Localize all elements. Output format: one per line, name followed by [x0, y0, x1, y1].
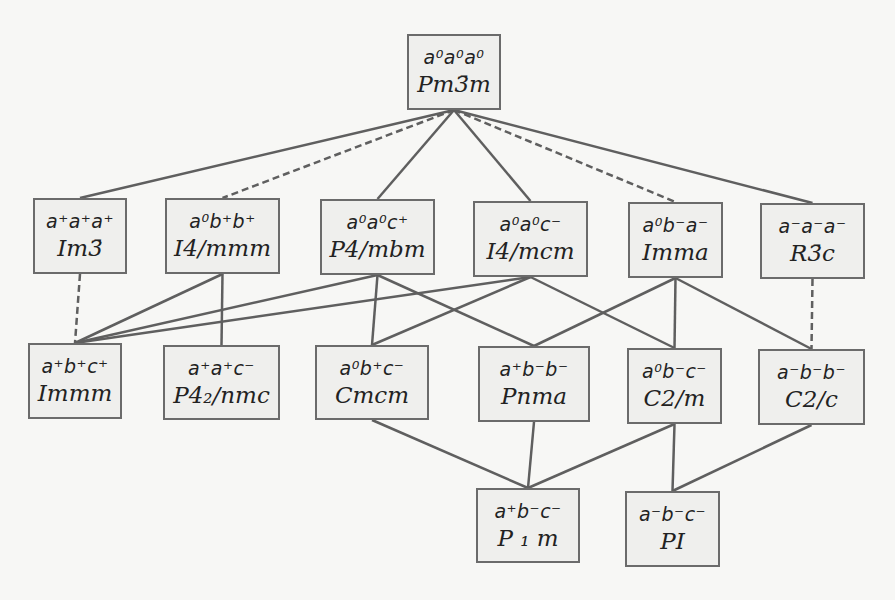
space-group-label: Im3̄	[57, 234, 103, 262]
tilt-label: a⁺a⁺a⁺	[46, 210, 114, 232]
space-group-label: Cmcm	[335, 381, 409, 409]
edge-n6-n12	[812, 279, 813, 349]
space-group-label: Pnma	[501, 382, 567, 410]
tilt-label: a⁺b⁻c⁻	[494, 500, 561, 522]
node-ambmcm-p1: a⁻b⁻c⁻ PI	[625, 491, 720, 567]
edge-n5-n12	[676, 278, 812, 349]
tilt-label: a⁰a⁰c⁻	[500, 213, 562, 235]
edge-n5-n11	[675, 278, 676, 348]
node-apapcm-p42nmc: a⁺a⁺c⁻ P4₂/nmc	[163, 345, 280, 420]
tilt-system-diagram: a⁰a⁰a⁰ Pm3̄m a⁺a⁺a⁺ Im3̄ a⁰b⁺b⁺ I4/mmm a…	[0, 0, 895, 600]
tilt-label: a⁰b⁻a⁻	[642, 214, 708, 236]
space-group-label: R3̄c	[790, 239, 835, 267]
tilt-label: a⁺b⁺c⁺	[41, 355, 108, 377]
node-apbmbm-pnma: a⁺b⁻b⁻ Pnma	[478, 346, 590, 422]
tilt-label: a⁺b⁻b⁻	[500, 358, 569, 380]
space-group-label: Imma	[642, 238, 708, 266]
space-group-label: PI	[660, 527, 685, 555]
node-amamam-r3c: a⁻a⁻a⁻ R3̄c	[760, 203, 865, 279]
node-apapap-im3: a⁺a⁺a⁺ Im3̄	[33, 198, 127, 274]
tilt-label: a⁰a⁰c⁺	[347, 211, 409, 233]
edge-n12-n14	[673, 425, 812, 491]
space-group-label: P ₁ m	[497, 524, 558, 552]
tilt-label: a⁻b⁻b⁻	[777, 361, 846, 383]
node-a0bmam-imma: a⁰b⁻a⁻ Imma	[628, 202, 723, 278]
edge-n3-n9	[372, 275, 378, 345]
node-a0a0a0-pm3m: a⁰a⁰a⁰ Pm3̄m	[407, 34, 501, 110]
edge-n0-n5	[454, 110, 676, 202]
tilt-label: a⁻b⁻c⁻	[639, 503, 706, 525]
space-group-label: Pm3̄m	[417, 70, 491, 98]
edge-n0-n3	[378, 110, 455, 199]
edge-n1-n7	[75, 274, 80, 343]
space-group-label: P4/mbm	[329, 235, 425, 263]
node-apbpcp-immm: a⁺b⁺c⁺ Immm	[28, 343, 122, 419]
node-apbmcm-p21m: a⁺b⁻c⁻ P ₁ m	[476, 488, 580, 563]
node-ambmbm-c2c: a⁻b⁻b⁻ C2/c	[758, 349, 865, 425]
edge-n0-n4	[454, 110, 531, 201]
node-a0bmcm-c2m: a⁰b⁻c⁻ C2/m	[627, 348, 722, 424]
tilt-label: a⁰b⁺b⁺	[189, 210, 255, 232]
edge-n0-n2	[223, 110, 455, 198]
edge-n11-n14	[673, 424, 675, 491]
edge-n11-n13	[528, 424, 675, 488]
edge-n3-n7	[75, 275, 378, 343]
tilt-label: a⁰b⁺c⁻	[340, 357, 405, 379]
tilt-label: a⁰b⁻c⁻	[642, 360, 707, 382]
space-group-label: Immm	[38, 379, 113, 407]
space-group-label: P4₂/nmc	[173, 381, 270, 409]
edge-n10-n13	[528, 422, 534, 488]
space-group-label: C2/c	[785, 385, 838, 413]
edge-n9-n13	[372, 420, 528, 488]
tilt-label: a⁺a⁺c⁻	[188, 357, 255, 379]
node-a0a0cm-i4mcm: a⁰a⁰c⁻ I4/mcm	[473, 201, 588, 277]
edge-n0-n1	[80, 110, 454, 198]
space-group-label: I4/mmm	[174, 234, 271, 262]
node-a0bpcm-cmcm: a⁰b⁺c⁻ Cmcm	[315, 345, 429, 420]
node-a0a0cp-p4mbm: a⁰a⁰c⁺ P4/mbm	[320, 199, 435, 275]
space-group-label: C2/m	[644, 384, 706, 412]
space-group-label: I4/mcm	[487, 237, 575, 265]
node-a0bpbp-i4mmm: a⁰b⁺b⁺ I4/mmm	[165, 198, 280, 274]
tilt-label: a⁰a⁰a⁰	[424, 46, 485, 68]
edge-n0-n6	[454, 110, 813, 203]
tilt-label: a⁻a⁻a⁻	[778, 215, 846, 237]
